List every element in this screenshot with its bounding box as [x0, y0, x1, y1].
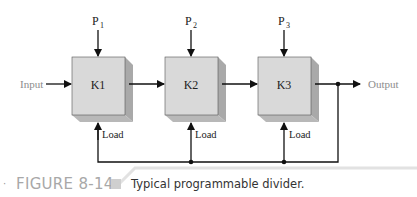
svg-text:P: P	[92, 14, 99, 28]
load-label-1: Load	[102, 129, 124, 140]
preset-label-p3: P 3	[278, 14, 290, 30]
block-label-k2: K2	[184, 78, 199, 92]
svg-text:P: P	[185, 14, 192, 28]
bus-junction-2	[189, 160, 194, 165]
svg-text:1: 1	[100, 21, 104, 30]
output-label: Output	[368, 78, 399, 90]
caption-square-icon	[111, 179, 121, 189]
block-label-k3: K3	[277, 78, 292, 92]
svg-text:3: 3	[286, 21, 290, 30]
preset-label-p2: P 2	[185, 14, 197, 30]
caption-text: Typical programmable divider.	[131, 177, 305, 191]
figure-caption: · FIGURE 8-14 Typical programmable divid…	[0, 175, 417, 195]
caption-bullet: ·	[3, 178, 6, 189]
svg-text:2: 2	[193, 21, 197, 30]
bus-junction-3	[282, 160, 287, 165]
preset-label-p1: P 1	[92, 14, 104, 30]
figure-number: FIGURE 8-14	[16, 175, 114, 193]
svg-text:P: P	[278, 14, 285, 28]
input-label: Input	[20, 78, 43, 90]
programmable-divider-diagram: Input Output K1 K2 K3 P 1 P 2 P 3 Load L…	[0, 0, 417, 197]
block-label-k1: K1	[91, 78, 106, 92]
load-label-3: Load	[289, 129, 311, 140]
load-label-2: Load	[195, 129, 217, 140]
